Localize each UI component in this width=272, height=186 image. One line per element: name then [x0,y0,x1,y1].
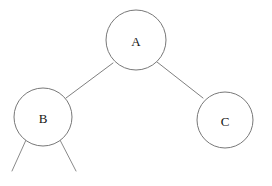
tree-diagram: A B C [0,0,272,186]
node-b[interactable]: B [14,88,72,146]
stub-b-left [12,140,26,171]
edge-a-to-c [157,62,203,98]
edge-a-to-b [66,63,113,98]
node-c[interactable]: C [197,92,253,148]
diagram-canvas: A B C [0,0,272,186]
node-b-label: B [39,111,48,126]
stub-b-right [60,140,76,171]
node-a[interactable]: A [106,10,166,70]
node-c-label: C [221,114,230,129]
node-a-label: A [131,34,141,49]
